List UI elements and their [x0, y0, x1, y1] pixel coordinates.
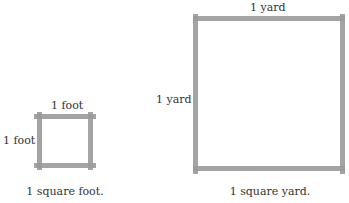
small-square-bottom-edge	[34, 163, 96, 168]
large-square-side-label: 1 yard	[156, 94, 192, 105]
small-square-left-edge	[37, 112, 42, 170]
large-square-top-edge	[193, 16, 345, 21]
large-square-left-edge	[193, 14, 198, 174]
large-square-bottom-edge	[193, 166, 345, 171]
small-square-side-label: 1 foot	[3, 135, 35, 146]
large-square-top-label: 1 yard	[250, 2, 286, 13]
large-square-right-edge	[340, 14, 345, 174]
small-square-right-edge	[88, 112, 93, 170]
large-square-caption: 1 square yard.	[230, 186, 311, 197]
small-square-top-label: 1 foot	[51, 100, 83, 111]
small-square-top-edge	[34, 114, 96, 119]
small-square-caption: 1 square foot.	[26, 186, 103, 197]
